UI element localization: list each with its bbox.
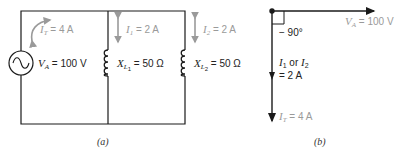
inductor2-reactance-label: XL2 = 50 Ω bbox=[194, 58, 241, 75]
branch2-current-label: I2 = 2 A bbox=[203, 24, 236, 39]
caption-a: (a) bbox=[97, 136, 109, 147]
source-voltage-label: VA = 100 V bbox=[38, 58, 87, 73]
it-phasor-label: IT = 4 A bbox=[279, 111, 312, 126]
branch1-current-label: I1 = 2 A bbox=[126, 24, 159, 39]
ac-source-icon bbox=[9, 51, 33, 75]
diagram-canvas bbox=[0, 0, 399, 153]
inductor-2-icon bbox=[181, 50, 185, 76]
inductor1-reactance-label: XL1 = 50 Ω bbox=[117, 58, 164, 75]
i1-phasor-arrow-icon bbox=[269, 72, 275, 80]
phase-angle-label: − 90° bbox=[279, 27, 303, 38]
va-phasor-label: VA = 100 V bbox=[345, 16, 394, 31]
inductor-1-icon bbox=[104, 50, 108, 76]
total-current-label: IT = 4 A bbox=[40, 24, 73, 39]
caption-b: (b) bbox=[314, 136, 326, 147]
branch-phasor-label: I1 or I2 = 2 A bbox=[279, 57, 309, 81]
